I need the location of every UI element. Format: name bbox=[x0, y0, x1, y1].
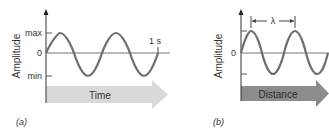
y-axis-arrowhead-a bbox=[44, 9, 49, 15]
panel-a: Time max 0 min Amplitude 1 s (a) bbox=[11, 9, 170, 127]
distance-arrow-label: Distance bbox=[259, 89, 298, 100]
wavelength-arrowhead-right bbox=[290, 19, 294, 23]
sine-wave-a bbox=[46, 33, 158, 76]
caption-b: (b) bbox=[213, 117, 224, 127]
zero-label-b: 0 bbox=[231, 48, 236, 58]
wave-diagram: Time max 0 min Amplitude 1 s (a) Distanc… bbox=[0, 0, 329, 131]
amplitude-label-b: Amplitude bbox=[213, 33, 224, 78]
zero-label-a: 0 bbox=[37, 48, 42, 58]
time-arrow-label: Time bbox=[89, 90, 111, 101]
y-axis-arrowhead-b bbox=[239, 9, 244, 15]
one-second-label: 1 s bbox=[149, 36, 162, 46]
amplitude-label-a: Amplitude bbox=[11, 33, 22, 78]
wavelength-arrowhead-left bbox=[252, 19, 256, 23]
wavelength-label: λ bbox=[271, 16, 276, 26]
caption-a: (a) bbox=[16, 117, 27, 127]
min-label: min bbox=[27, 71, 42, 81]
panel-b: Distance 0 Amplitude λ (b) bbox=[213, 9, 329, 127]
max-label: max bbox=[25, 28, 43, 38]
